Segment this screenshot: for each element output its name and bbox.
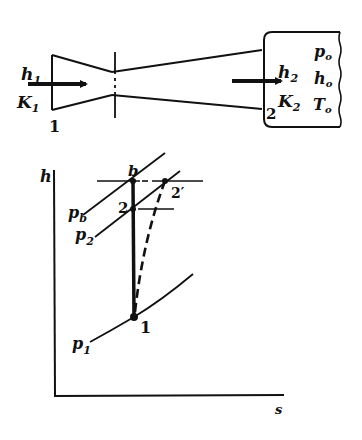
isobar-p2-label: p2 [75,225,94,248]
point-2-prime-label: 2′ [171,185,185,201]
converging-wall-bottom [52,95,112,110]
inlet-enthalpy-label: h1 [21,64,41,87]
inlet-station-label: 1 [49,117,60,136]
outlet-enthalpy-label: h2 [278,62,298,85]
point-2 [130,206,136,212]
point-1 [130,313,138,321]
h-axis-label: h [40,167,52,186]
reservoir-temperature-label: To [313,95,332,115]
figure: h1 K1 1 h2 K2 2 po ho To h s [0,0,362,440]
s-axis-label: s [275,402,283,417]
inlet-kinetic-energy-label: K1 [16,92,39,115]
nozzle-schematic: h1 K1 1 h2 K2 2 po ho To [16,32,341,136]
isobar-p1-label: p1 [72,334,91,357]
outlet-station-label: 2 [266,105,276,123]
reservoir-pressure-label: po [314,42,332,62]
reservoir-enthalpy-label: ho [314,69,333,89]
diverging-wall-bottom [112,95,262,109]
point-b-label: b [128,162,139,180]
point-2-prime [162,178,168,184]
h-axis [54,170,55,396]
s-axis [54,395,284,396]
converging-wall-top [52,55,112,72]
reservoir-break-edge [339,32,341,127]
diverging-wall-top [112,50,262,72]
irreversible-process-line [135,181,165,312]
outlet-kinetic-energy-label: K2 [277,91,301,114]
isentropic-process-line [133,181,134,317]
hs-diagram: h s pb p2 p1 b 2 2′ 1 [40,153,284,417]
point-2-label: 2 [118,199,128,217]
point-1-label: 1 [140,318,151,337]
isobar-pb-label: pb [68,203,87,225]
